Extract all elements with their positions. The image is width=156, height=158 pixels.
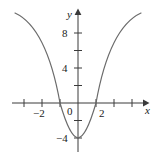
y-tick-label-neg4: −4 (56, 133, 68, 144)
x-axis-label: x (145, 105, 150, 116)
y-axis (75, 9, 82, 153)
x-tick-label-neg2: −2 (33, 108, 45, 119)
plot-area (0, 0, 156, 158)
y-tick-label-4: 4 (62, 63, 68, 74)
origin-label: 0 (67, 106, 73, 117)
x-axis (12, 100, 150, 107)
x-tick-label-2: 2 (99, 108, 105, 119)
y-axis-label: y (67, 9, 72, 20)
parabola-figure: y x 0 −2 2 8 4 −4 (0, 0, 156, 158)
y-tick-label-8: 8 (62, 28, 68, 39)
